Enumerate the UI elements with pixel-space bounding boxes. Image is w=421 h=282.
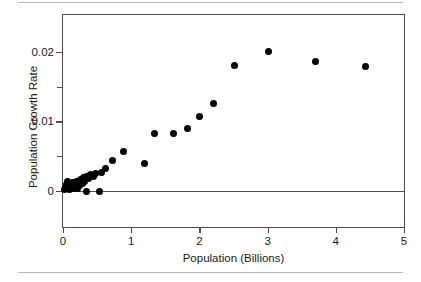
x-axis-title: Population (Billions) [62,252,405,264]
data-point [210,100,217,107]
plot-area: 00.010.02 012345 [62,14,405,228]
y-axis-tick-label: 0 [48,185,54,197]
data-point [83,188,90,195]
y-axis-tick [57,87,63,88]
x-axis-tick-label: 0 [60,235,66,247]
x-axis-tick-label: 1 [128,235,134,247]
x-axis-tick [199,227,200,233]
x-axis-tick [404,227,405,233]
zero-reference-line [63,191,404,192]
data-point [196,113,203,120]
data-point [184,125,191,132]
data-point [362,63,369,70]
x-axis-tick-label: 5 [401,235,407,247]
y-axis-tick [57,156,63,157]
data-point [151,130,158,137]
x-axis-tick-label: 3 [264,235,270,247]
y-axis-title: Population Growth Rate [27,27,39,227]
data-point [312,58,319,65]
x-axis-tick-label: 4 [333,235,339,247]
data-point [170,130,177,137]
x-axis-tick [336,227,337,233]
y-axis-tick [56,52,63,53]
y-axis-tick [56,121,63,122]
x-axis-tick-label: 2 [196,235,202,247]
x-axis-tick [63,227,64,233]
x-axis-tick [131,227,132,233]
data-point [265,48,272,55]
data-point [141,160,148,167]
data-point [109,157,116,164]
data-point [102,165,109,172]
data-point [120,148,127,155]
data-point [96,188,103,195]
scatter-chart-figure: 00.010.02 012345 Population (Billions) P… [0,0,421,282]
data-point [231,62,238,69]
x-axis-tick [268,227,269,233]
